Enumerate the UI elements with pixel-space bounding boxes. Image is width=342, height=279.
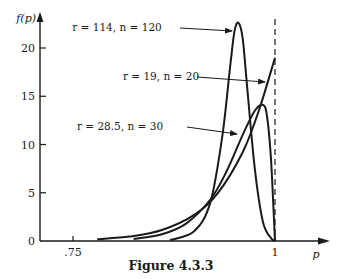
- y-tick-label: 0: [28, 235, 35, 248]
- annotation-r114: r = 114, n = 120: [72, 21, 232, 33]
- annotation-r28_5: r = 28.5, n = 30: [77, 120, 237, 134]
- x-tick-label: 1: [272, 246, 279, 259]
- annotation-label: r = 19, n = 20: [123, 70, 199, 82]
- annotation-r19: r = 19, n = 20: [123, 70, 265, 82]
- curve-r19-n20: [97, 58, 275, 240]
- x-axis-label: p: [312, 248, 319, 261]
- y-ticks: 05101520: [21, 42, 46, 248]
- y-tick-label: 20: [21, 42, 35, 55]
- annotation-label: r = 28.5, n = 30: [77, 120, 163, 132]
- y-tick-label: 15: [21, 90, 35, 103]
- y-tick-label: 10: [21, 139, 35, 152]
- x-tick-label: .75: [64, 246, 82, 259]
- x-axis-arrow-icon: [318, 238, 330, 245]
- chart: 05101520 f(p) .751 p r = 114, n = 120 r …: [0, 0, 342, 279]
- figure-caption: Figure 4.3.3: [128, 258, 213, 273]
- annotation-label: r = 114, n = 120: [72, 21, 162, 33]
- y-axis-label: f(p): [15, 12, 36, 25]
- y-tick-label: 5: [28, 187, 35, 200]
- y-axis: 05101520 f(p): [15, 12, 46, 248]
- y-axis-arrow-icon: [37, 12, 44, 22]
